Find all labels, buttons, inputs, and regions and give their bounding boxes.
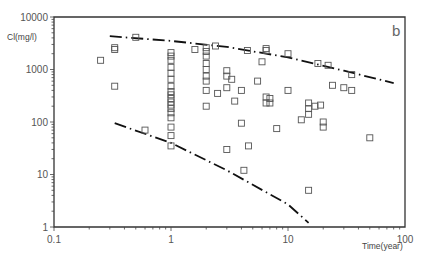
data-point [367, 135, 373, 141]
data-point [263, 94, 269, 100]
data-point [263, 100, 269, 106]
data-point [263, 46, 269, 52]
data-point [168, 96, 174, 102]
data-point [306, 187, 312, 193]
data-point [215, 90, 221, 96]
y-axis: 100001000100101 [20, 12, 54, 233]
x-tick-label: 0.1 [47, 234, 61, 245]
data-point [168, 70, 174, 76]
data-point [267, 100, 273, 106]
data-point [168, 124, 174, 130]
y-tick-label: 10 [37, 169, 49, 180]
data-point [255, 78, 261, 84]
data-point [192, 47, 198, 53]
data-point [168, 76, 174, 82]
data-point [203, 87, 209, 93]
data-point [267, 96, 273, 102]
data-point [98, 57, 104, 63]
data-point [112, 83, 118, 89]
x-tick-label: 10 [282, 234, 294, 245]
data-point [168, 53, 174, 59]
data-point [306, 106, 312, 112]
data-point [341, 85, 347, 91]
data-point [238, 87, 244, 93]
data-point [318, 102, 324, 108]
x-tick-label: 1 [168, 234, 174, 245]
envelope-line [110, 36, 394, 83]
x-axis: 0.1110100 [47, 227, 414, 245]
data-point [232, 98, 238, 104]
data-point [306, 100, 312, 106]
data-point [168, 57, 174, 63]
y-tick-label: 100 [31, 117, 48, 128]
data-point [312, 103, 318, 109]
envelope-lines [110, 36, 394, 223]
data-point [203, 67, 209, 73]
data-point [259, 59, 265, 65]
panel-label: b [392, 22, 400, 39]
data-point [306, 111, 312, 117]
data-point [112, 45, 118, 51]
envelope-line [115, 123, 309, 223]
chloride-time-chart: 100001000100101 0.1110100 Cl(mg/l) Time(… [0, 0, 424, 268]
data-point [224, 147, 230, 153]
data-point [224, 85, 230, 91]
data-point [203, 53, 209, 59]
data-point [238, 120, 244, 126]
data-point [315, 61, 321, 67]
data-point [274, 126, 280, 132]
data-point [349, 87, 355, 93]
data-point [246, 143, 252, 149]
data-point [168, 133, 174, 139]
data-point [285, 51, 291, 57]
data-point [168, 64, 174, 70]
data-point [285, 87, 291, 93]
data-point [330, 82, 336, 88]
plot-frame [54, 17, 405, 227]
data-point [203, 45, 209, 51]
data-point [203, 61, 209, 67]
data-point [241, 167, 247, 173]
data-point [112, 47, 118, 53]
data-point [168, 50, 174, 56]
data-point [298, 117, 304, 123]
y-tick-label: 1 [42, 222, 48, 233]
data-point [168, 106, 174, 112]
data-point [203, 49, 209, 55]
y-tick-label: 10000 [20, 12, 48, 23]
data-point [203, 103, 209, 109]
y-tick-label: 1000 [26, 64, 49, 75]
x-axis-title: Time(year) [362, 241, 403, 251]
data-points [98, 34, 373, 193]
y-axis-title: Cl(mg/l) [7, 32, 37, 42]
